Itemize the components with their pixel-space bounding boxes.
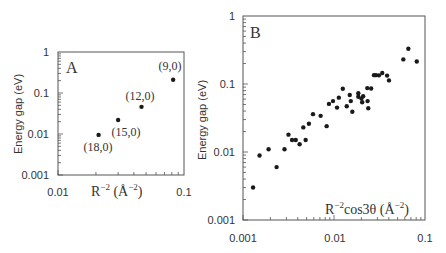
panel-a-x-ticks — [58, 170, 178, 175]
data-point — [365, 86, 369, 90]
data-point — [337, 95, 341, 99]
data-point — [307, 122, 311, 126]
panel-b-xtick-0.1: 0.1 — [417, 232, 432, 244]
data-point — [385, 73, 389, 77]
data-point — [360, 100, 364, 104]
data-point — [406, 47, 410, 51]
panel-a-ytick-1: 1 — [43, 46, 49, 58]
data-point — [257, 153, 261, 157]
panel-b-points — [251, 47, 419, 190]
panel-a-xtick-0.1: 0.1 — [176, 186, 191, 198]
data-point — [116, 118, 120, 122]
panel-a: 1 0.1 0.01 0.001 0.01 0.1 Energy gap (eV… — [12, 46, 192, 200]
figure: 1 0.1 0.01 0.001 0.01 0.1 Energy gap (eV… — [0, 0, 446, 253]
data-point — [286, 132, 290, 136]
panel-b-ytick-0.01: 0.01 — [214, 146, 235, 158]
annotation-15-0: (15,0) — [112, 125, 141, 139]
data-point — [349, 99, 353, 103]
panel-b-ytick-0.1: 0.1 — [220, 78, 235, 90]
data-point — [366, 106, 370, 110]
panel-a-y-ticks — [58, 54, 63, 175]
data-point — [345, 104, 349, 108]
panel-a-label: A — [66, 59, 78, 76]
data-point — [266, 147, 270, 151]
panel-b-y-ticks — [243, 19, 248, 220]
data-point — [96, 133, 100, 137]
data-point — [356, 91, 360, 95]
panel-a-y-axis-title: Energy gap (eV) — [12, 74, 24, 154]
data-point — [311, 112, 315, 116]
data-point — [324, 124, 328, 128]
panel-b-label: B — [250, 24, 261, 41]
data-point — [301, 125, 305, 129]
panel-b-xtick-0.01: 0.01 — [324, 232, 345, 244]
panel-a-ytick-0.1: 0.1 — [34, 87, 49, 99]
data-point — [387, 78, 391, 82]
data-point — [361, 94, 365, 98]
data-point — [369, 86, 373, 90]
data-point — [297, 142, 301, 146]
data-point — [380, 71, 384, 75]
data-point — [294, 138, 298, 142]
data-point — [341, 87, 345, 91]
annotation-12-0: (12,0) — [126, 89, 155, 103]
panel-b-ytick-1: 1 — [229, 10, 235, 22]
data-point — [139, 105, 143, 109]
data-point — [274, 165, 278, 169]
data-point — [282, 147, 286, 151]
panel-b-y-axis-title: Energy gap (eV) — [196, 80, 208, 160]
panel-a-ytick-0.01: 0.01 — [28, 128, 49, 140]
panel-b-ytick-0.001: 0.001 — [207, 214, 235, 226]
data-point — [401, 57, 405, 61]
panel-a-xtick-0.01: 0.01 — [47, 186, 68, 198]
panel-a-ytick-0.001: 0.001 — [21, 169, 49, 181]
data-point — [350, 110, 354, 114]
panel-a-x-axis-title: R−2 (Å−2) — [91, 182, 143, 200]
annotation-18-0: (18,0) — [84, 140, 113, 154]
panel-b-x-axis-title: R−2cos3θ (Å−2) — [325, 200, 409, 218]
data-point — [348, 93, 352, 97]
annotation-9-0: (9,0) — [159, 59, 182, 73]
data-point — [365, 99, 369, 103]
panel-b-frame — [243, 16, 425, 220]
data-point — [171, 78, 175, 82]
data-point — [303, 138, 307, 142]
data-point — [327, 102, 331, 106]
data-point — [318, 114, 322, 118]
data-point — [251, 185, 255, 189]
panel-b: 1 0.1 0.01 0.001 0.001 0.01 0.1 Energy g… — [196, 10, 433, 244]
data-point — [331, 99, 335, 103]
panel-b-xtick-0.001: 0.001 — [229, 232, 257, 244]
data-point — [415, 59, 419, 63]
data-point — [335, 105, 339, 109]
